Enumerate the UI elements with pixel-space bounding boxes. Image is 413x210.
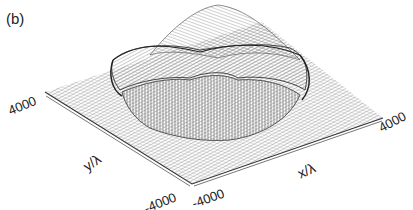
plateau-surface <box>111 5 309 141</box>
surface-plot <box>0 0 413 210</box>
